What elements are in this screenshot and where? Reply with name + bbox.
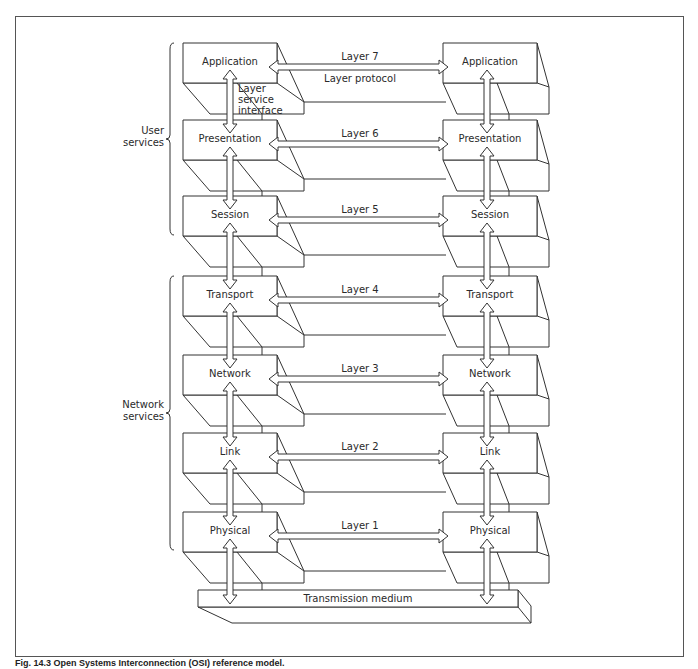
medium-label: Transmission medium (303, 593, 413, 604)
brace-icon (166, 43, 174, 235)
layer-3-label: Layer 3 (341, 363, 378, 374)
figure-caption: Fig. 14.3 Open Systems Interconnection (… (15, 657, 285, 669)
layer-5-label: Layer 5 (341, 204, 378, 215)
right-box-label: Physical (470, 525, 511, 536)
right-box-presentation: Presentation (443, 120, 549, 196)
right-box-application: Application (443, 43, 549, 120)
layer-4-peer-arrow (269, 293, 448, 307)
left-box-session: Session (183, 196, 304, 276)
left-box-label: Link (220, 446, 241, 457)
left-box-label: Session (211, 209, 249, 220)
group-label: Network (122, 399, 164, 410)
left-box-label: Physical (210, 525, 251, 536)
layer-service-interface-label: interface (238, 105, 283, 116)
right-box-physical: Physical (443, 512, 549, 590)
right-box-label: Transport (466, 289, 514, 300)
group-label: User (141, 125, 165, 136)
layer-1-peer-arrow (269, 529, 448, 543)
service-groups: UserservicesNetworkservices (122, 43, 174, 550)
layer-service-interface-label: Layer (238, 83, 267, 94)
left-box-label: Application (202, 56, 258, 67)
right-box-label: Link (480, 446, 501, 457)
layer-2-label: Layer 2 (341, 441, 378, 452)
layer-service-interface-label: service (238, 94, 274, 105)
left-box-label: Transport (206, 289, 254, 300)
left-box-label: Presentation (199, 133, 262, 144)
left-box-presentation: Presentation (183, 120, 304, 196)
right-box-link: Link (443, 433, 549, 512)
group-label: services (123, 137, 164, 148)
brace-icon (166, 276, 174, 550)
left-box-network: Network (183, 355, 304, 433)
right-box-label: Session (471, 209, 509, 220)
network-services-group: Networkservices (122, 276, 174, 550)
right-box-transport: Transport (443, 276, 549, 355)
layer-4-label: Layer 4 (341, 284, 378, 295)
layer-2-peer-arrow (269, 450, 448, 464)
left-box-label: Network (209, 368, 251, 379)
right-box-network: Network (443, 355, 549, 433)
layer-6-label: Layer 6 (341, 128, 378, 139)
layer-7-peer-arrow (269, 60, 448, 74)
left-box-link: Link (183, 433, 304, 512)
layer-5-peer-arrow (269, 213, 448, 227)
layer-1-label: Layer 1 (341, 520, 378, 531)
user-services-group: Userservices (123, 43, 174, 235)
right-box-session: Session (443, 196, 549, 276)
right-box-label: Network (469, 368, 511, 379)
layer-6-peer-arrow (269, 137, 448, 151)
right-box-label: Application (462, 56, 518, 67)
layer-7-label: Layer 7 (341, 51, 378, 62)
layer-3-peer-arrow (269, 372, 448, 386)
layer-boxes: PhysicalPhysicalLinkLinkNetworkNetworkTr… (183, 43, 549, 590)
layer-channels (304, 102, 446, 571)
group-label: services (123, 411, 164, 422)
layer-protocol-label: Layer protocol (324, 73, 396, 84)
left-box-physical: Physical (183, 512, 304, 590)
left-box-transport: Transport (183, 276, 304, 355)
right-box-label: Presentation (459, 133, 522, 144)
